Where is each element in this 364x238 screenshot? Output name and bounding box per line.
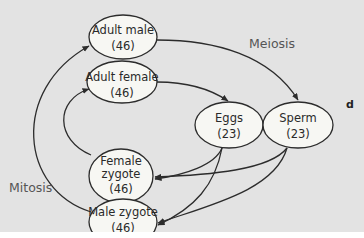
sperm-count: (23) <box>286 127 310 141</box>
meiosis-label: Meiosis <box>249 36 295 51</box>
panel-letter: d <box>346 98 354 111</box>
eggs-label: Eggs <box>215 111 243 125</box>
node-eggs <box>195 102 263 148</box>
bottom-margin <box>0 232 364 238</box>
eggs-count: (23) <box>217 127 241 141</box>
adult-female-count: (46) <box>110 86 134 100</box>
adult-male-count: (46) <box>111 39 135 53</box>
node-sperm <box>263 102 333 148</box>
adult-female-label: Adult female <box>85 70 158 84</box>
female-zygote-count: (46) <box>109 182 133 196</box>
life-cycle-diagram: Adult male (46) Adult female (46) Eggs (… <box>0 0 364 238</box>
female-zygote-label-line2: zygote <box>102 167 141 181</box>
adult-male-label: Adult male <box>92 23 154 37</box>
sperm-label: Sperm <box>279 111 316 125</box>
male-zygote-label: Male zygote <box>88 205 158 219</box>
mitosis-label: Mitosis <box>9 180 52 195</box>
female-zygote-label-line1: Female <box>100 154 142 168</box>
